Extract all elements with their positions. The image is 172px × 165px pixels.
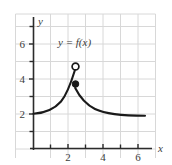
- closed-endpoint-marker: [72, 81, 79, 88]
- function-label: y = f(x): [57, 36, 91, 49]
- x-tick-label-2: 2: [65, 151, 71, 163]
- open-endpoint-marker: [72, 63, 79, 70]
- y-tick-label-4: 4: [20, 73, 26, 85]
- x-axis-label: x: [157, 142, 163, 154]
- plot-canvas: 6 4 2 2 4 6 y x y = f(x): [0, 0, 172, 165]
- y-tick-label-2: 2: [20, 108, 26, 120]
- curve-left-branch: [34, 71, 75, 114]
- function-graph-figure: 6 4 2 2 4 6 y x y = f(x): [0, 0, 172, 165]
- y-axis-label: y: [37, 15, 43, 27]
- x-tick-label-6: 6: [135, 151, 141, 163]
- y-tick-label-6: 6: [20, 38, 26, 50]
- x-tick-label-4: 4: [100, 151, 106, 163]
